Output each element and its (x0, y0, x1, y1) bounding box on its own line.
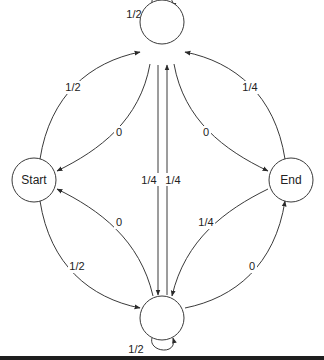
edge-label-end-to-top: 1/4 (241, 81, 259, 94)
node-bottom (140, 296, 184, 340)
node-start: Start (12, 158, 56, 202)
svg-text:1/4: 1/4 (242, 81, 257, 93)
svg-text:1/2: 1/2 (126, 8, 141, 20)
edge-bottom-to-start (57, 189, 153, 296)
svg-text:1/4: 1/4 (141, 174, 156, 186)
edge-label-start-to-bottom: 1/2 (68, 260, 86, 273)
edge-end-to-top (185, 52, 285, 159)
edge-label-start-to-top: 1/2 (64, 81, 82, 94)
edge-start-to-top (40, 52, 140, 159)
node-end: End (269, 158, 313, 202)
edge-start-to-bottom (40, 201, 140, 308)
node-top (140, 0, 184, 44)
edge-label-bottom-self: 1/2 (128, 343, 143, 355)
edge-label-bottom-to-top: 1/4 (165, 174, 180, 186)
svg-text:0: 0 (116, 126, 122, 138)
edge-label-bottom-to-end: 0 (247, 260, 257, 273)
svg-text:1/2: 1/2 (128, 343, 143, 355)
edge-label-top-self: 1/2 (126, 8, 141, 20)
bottom-border (0, 356, 324, 360)
svg-text:1/4: 1/4 (198, 216, 213, 228)
svg-text:1/2: 1/2 (69, 260, 84, 272)
edge-label-bottom-to-start: 0 (114, 216, 124, 229)
svg-text:0: 0 (116, 216, 122, 228)
svg-text:Start: Start (21, 173, 47, 187)
edge-label-top-to-start: 0 (114, 126, 124, 139)
edge-label-end-to-bottom: 1/4 (197, 216, 215, 229)
svg-text:1/2: 1/2 (65, 81, 80, 93)
svg-text:1/4: 1/4 (165, 174, 180, 186)
svg-text:End: End (280, 173, 301, 187)
state-diagram: 1/2 1/2 0 1/4 0 1/4 1/4 0 (0, 0, 324, 360)
edge-label-top-to-end: 0 (201, 126, 211, 139)
edge-end-to-bottom (172, 189, 268, 296)
svg-text:0: 0 (203, 126, 209, 138)
svg-text:0: 0 (249, 260, 255, 272)
